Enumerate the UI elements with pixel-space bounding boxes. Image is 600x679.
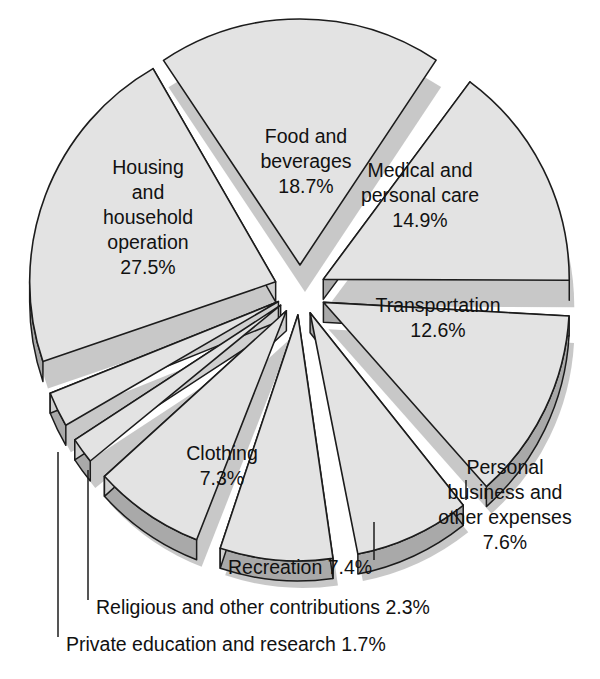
slice-label-religious-and-other-contributions: Religious and other contributions 2.3% <box>96 596 430 618</box>
pie-chart-figure: Food andbeverages18.7%Medical andpersona… <box>0 0 600 679</box>
pie-chart-svg: Food andbeverages18.7%Medical andpersona… <box>0 0 600 679</box>
slice-label-private-education-and-research: Private education and research 1.7% <box>66 633 386 655</box>
slice-label-recreation: Recreation 7.4% <box>228 556 372 578</box>
